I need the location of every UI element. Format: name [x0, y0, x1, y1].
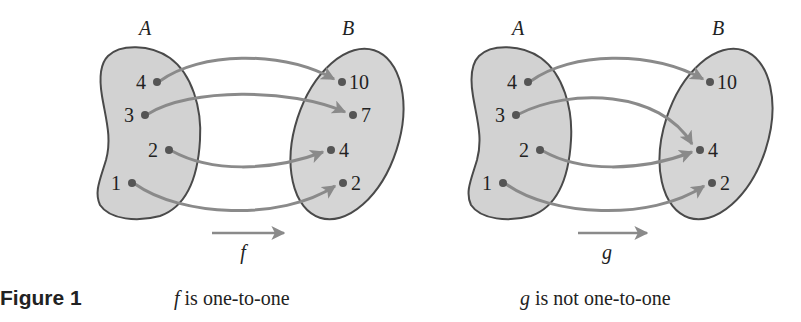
- svg-text:2: 2: [720, 172, 730, 194]
- svg-text:2: 2: [519, 139, 529, 161]
- figure-canvas: A B 4 3 2 1 10: [0, 0, 801, 322]
- svg-text:2: 2: [148, 139, 158, 161]
- svg-text:3: 3: [124, 104, 134, 126]
- svg-text:4: 4: [136, 71, 146, 93]
- diagram-f: A B 4 3 2 1 10: [98, 17, 424, 264]
- set-b-label: B: [342, 17, 354, 39]
- svg-text:4: 4: [708, 139, 718, 161]
- function-label: g: [602, 241, 612, 264]
- svg-text:2: 2: [351, 172, 361, 194]
- svg-text:7: 7: [361, 104, 371, 126]
- set-b-label: B: [712, 17, 724, 39]
- set-a-label: A: [510, 17, 525, 39]
- svg-text:3: 3: [495, 104, 505, 126]
- figure-label: Figure 1: [0, 286, 82, 310]
- function-label: f: [240, 241, 248, 264]
- svg-text:10: 10: [349, 71, 369, 93]
- svg-text:1: 1: [111, 172, 121, 194]
- svg-text:1: 1: [482, 172, 492, 194]
- caption-text: is not one-to-one: [530, 287, 671, 309]
- caption-g: g is not one-to-one: [520, 287, 671, 310]
- diagram-g: A B 4 3 2 1 10 4: [469, 17, 793, 264]
- caption-function-name: g: [520, 287, 530, 309]
- caption-text: is one-to-one: [180, 287, 290, 309]
- svg-text:10: 10: [717, 71, 737, 93]
- svg-text:4: 4: [339, 139, 349, 161]
- caption-f: f is one-to-one: [174, 287, 290, 310]
- svg-text:4: 4: [507, 71, 517, 93]
- set-a-label: A: [137, 17, 152, 39]
